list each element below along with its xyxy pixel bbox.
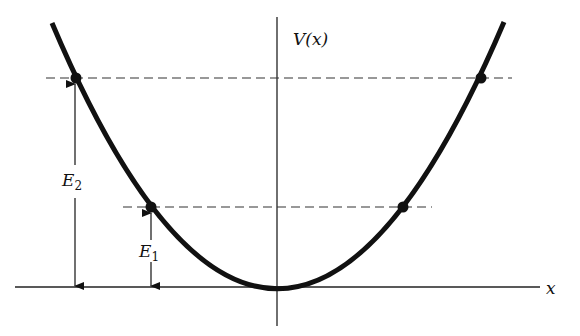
e1-label-sub: 1 <box>151 250 159 264</box>
x-axis-label: x <box>546 280 556 297</box>
e2-label: E2 <box>62 172 82 192</box>
potential-diagram <box>0 0 580 336</box>
e2-right-turning-point <box>476 73 487 84</box>
e2-left-turning-point <box>71 73 82 84</box>
potential-curve <box>52 22 504 289</box>
e2-label-sub: 2 <box>74 179 82 193</box>
e1-right-turning-point <box>398 202 409 213</box>
e2-label-main: E <box>62 170 74 190</box>
e1-left-turning-point <box>146 202 157 213</box>
e1-label: E1 <box>139 243 159 263</box>
e1-label-main: E <box>139 241 151 261</box>
y-axis-label: V(x) <box>293 31 328 48</box>
